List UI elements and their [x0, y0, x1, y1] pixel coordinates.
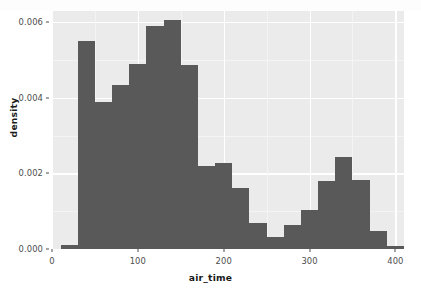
x-tick-label: 400: [387, 256, 403, 266]
histogram-bar: [112, 85, 129, 249]
x-axis-title: air_time: [0, 272, 421, 283]
histogram-bar: [198, 166, 215, 249]
x-tick-mark: [309, 249, 310, 252]
histogram-bar: [370, 231, 387, 249]
histogram-bar: [318, 181, 335, 249]
y-tick-label: 0.004: [19, 93, 43, 103]
histogram-bar: [215, 163, 232, 249]
y-tick-label: 0.000: [19, 244, 43, 254]
gridline-major-y: [52, 98, 404, 99]
x-tick-label: 200: [216, 256, 232, 266]
histogram-bar: [301, 210, 318, 249]
histogram-bar: [249, 223, 266, 249]
y-tick-mark: [46, 22, 49, 23]
x-tick-label: 300: [301, 256, 317, 266]
x-tick-label: 100: [130, 256, 146, 266]
histogram-bar: [129, 64, 146, 249]
x-axis: 0100200300400: [52, 249, 404, 271]
x-tick-label: 0: [49, 256, 54, 266]
x-tick-mark: [223, 249, 224, 252]
x-tick-mark: [137, 249, 138, 252]
x-tick-mark: [52, 249, 53, 252]
histogram-bar: [78, 41, 95, 249]
histogram-bar: [95, 102, 112, 249]
histogram-bar: [146, 26, 163, 249]
gridline-major-x: [52, 11, 53, 249]
y-tick-mark: [46, 249, 49, 250]
histogram-bar: [352, 180, 369, 249]
y-tick-label: 0.002: [19, 168, 43, 178]
y-tick-label: 0.006: [19, 17, 43, 27]
histogram-bar: [164, 20, 181, 249]
y-tick-mark: [46, 173, 49, 174]
histogram-bar: [181, 65, 198, 249]
gridline-minor-y: [52, 60, 404, 61]
plot-panel: [52, 11, 404, 249]
y-axis-title: density: [8, 68, 19, 168]
y-tick-mark: [46, 97, 49, 98]
figure-top-margin: [0, 0, 421, 11]
histogram-bar: [335, 157, 352, 249]
gridline-major-x: [395, 11, 396, 249]
gridline-minor-x: [267, 11, 268, 249]
histogram-figure: 0.0000.0020.0040.006 0100200300400 air_t…: [0, 0, 421, 295]
histogram-bar: [267, 237, 284, 249]
histogram-bar: [232, 188, 249, 249]
histogram-bar: [284, 225, 301, 249]
gridline-major-y: [52, 22, 404, 23]
x-tick-mark: [395, 249, 396, 252]
